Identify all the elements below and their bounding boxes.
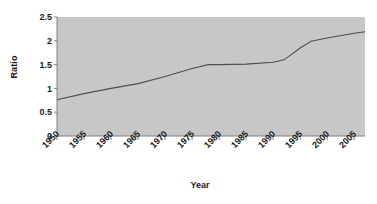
chart-container: Ratio 2.5 2 1.5 1 0.5 0 1950195519601965… [0, 0, 377, 204]
plot-area [0, 0, 377, 204]
x-axis-title: Year [150, 180, 250, 190]
plot-background [57, 17, 365, 136]
